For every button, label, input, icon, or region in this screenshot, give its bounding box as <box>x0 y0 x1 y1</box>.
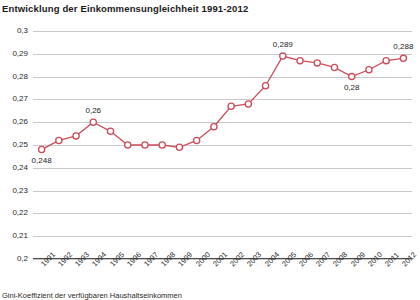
y-tick-label: 0,21 <box>0 231 28 240</box>
line-series <box>33 31 412 259</box>
y-tick-label: 0,28 <box>0 72 28 81</box>
data-point-marker <box>73 133 79 139</box>
data-point-marker <box>90 119 96 125</box>
data-point-label: 0,28 <box>344 83 360 92</box>
y-tick-label: 0,2 <box>0 254 28 263</box>
data-point-marker <box>366 67 372 73</box>
series-markers <box>39 53 407 153</box>
data-point-marker <box>228 103 234 109</box>
data-point-label: 0,26 <box>85 106 101 115</box>
y-tick-label: 0,29 <box>0 49 28 58</box>
data-point-marker <box>349 74 355 80</box>
data-point-marker <box>142 142 148 148</box>
data-point-label: 0,248 <box>32 156 52 165</box>
data-point-marker <box>107 128 113 134</box>
data-point-marker <box>400 55 406 61</box>
data-point-label: 0,289 <box>273 40 293 49</box>
data-point-marker <box>383 58 389 64</box>
y-tick-label: 0,25 <box>0 140 28 149</box>
data-point-marker <box>331 64 337 70</box>
y-tick-label: 0,24 <box>0 163 28 172</box>
data-point-marker <box>314 60 320 66</box>
data-point-marker <box>56 137 62 143</box>
y-tick-label: 0,26 <box>0 117 28 126</box>
y-tick-label: 0,23 <box>0 186 28 195</box>
data-point-marker <box>39 146 45 152</box>
data-point-marker <box>194 137 200 143</box>
data-point-marker <box>262 83 268 89</box>
series-polyline <box>42 56 404 149</box>
y-tick-label: 0,22 <box>0 208 28 217</box>
chart-footnote: Gini-Koeffizient der verfügbaren Haushal… <box>2 291 182 300</box>
data-point-marker <box>125 142 131 148</box>
chart-container: Entwicklung der Einkommensungleichheit 1… <box>0 0 420 300</box>
data-point-marker <box>211 124 217 130</box>
data-point-marker <box>297 58 303 64</box>
data-point-marker <box>159 142 165 148</box>
y-tick-label: 0,27 <box>0 94 28 103</box>
data-point-marker <box>280 53 286 59</box>
chart-title: Entwicklung der Einkommensungleichheit 1… <box>2 3 248 14</box>
y-tick-label: 0,3 <box>0 26 28 35</box>
data-point-label: 0,288 <box>393 42 413 51</box>
data-point-marker <box>176 144 182 150</box>
plot-area: 0,2480,260,2890,280,288 <box>33 31 412 259</box>
data-point-marker <box>245 101 251 107</box>
